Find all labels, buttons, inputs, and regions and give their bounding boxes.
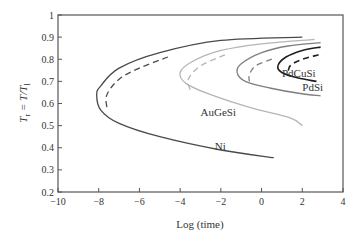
series-line-augesi-dashed xyxy=(188,55,225,90)
series-line-ni-dashed xyxy=(106,57,168,108)
y-tick-label: 0.6 xyxy=(42,98,55,109)
series-label-pdsi: PdSi xyxy=(302,81,323,93)
y-axis-title: Tr = T/Tl xyxy=(17,83,32,123)
x-axis-title: Log (time) xyxy=(176,218,224,231)
y-tick-label: 1 xyxy=(49,10,54,21)
series-label-augesi: AuGeSi xyxy=(201,106,236,118)
x-tick-label: −6 xyxy=(134,196,145,207)
axes-layer: −10−8−6−4−20240.20.30.40.50.60.70.80.91 xyxy=(42,10,346,208)
y-tick-label: 0.7 xyxy=(42,76,55,87)
plot-frame xyxy=(58,15,343,192)
y-tick-label: 0.4 xyxy=(42,142,55,153)
x-tick-label: 4 xyxy=(341,196,346,207)
y-tick-label: 0.5 xyxy=(42,120,55,131)
x-tick-label: 0 xyxy=(259,196,264,207)
x-tick-label: −10 xyxy=(50,196,66,207)
series-line-pdsi-dashed xyxy=(249,59,272,81)
series-line-ni xyxy=(97,37,303,158)
y-tick-label: 0.2 xyxy=(42,187,55,198)
y-tick-label: 0.8 xyxy=(42,54,55,65)
x-tick-label: −2 xyxy=(216,196,227,207)
y-tick-label: 0.9 xyxy=(42,32,55,43)
y-tick-label: 0.3 xyxy=(42,164,55,175)
chart: −10−8−6−4−20240.20.30.40.50.60.70.80.91 … xyxy=(0,0,362,237)
series-label-ni: Ni xyxy=(215,140,226,152)
series-label-pdcusi: PdCuSi xyxy=(282,67,316,79)
x-tick-label: 2 xyxy=(300,196,305,207)
x-tick-label: −4 xyxy=(175,196,186,207)
x-tick-label: −8 xyxy=(93,196,104,207)
series-layer xyxy=(97,37,321,158)
